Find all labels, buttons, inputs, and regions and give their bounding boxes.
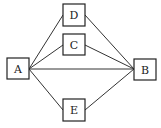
node-d: D [63, 4, 85, 26]
node-e-label: E [70, 104, 78, 117]
edge-a-c [29, 45, 63, 69]
node-b: B [134, 59, 156, 80]
edge-d-b [85, 15, 134, 69]
edge-a-e [29, 69, 63, 110]
node-a: A [7, 58, 29, 79]
node-a-label: A [13, 63, 23, 76]
node-c: C [63, 34, 85, 55]
node-b-label: B [141, 64, 149, 77]
edge-e-b [85, 69, 134, 110]
graph-diagram: A D C B E [0, 0, 161, 128]
edge-a-d [29, 15, 63, 69]
node-e: E [63, 99, 85, 121]
edge-c-b [85, 45, 134, 69]
edges [29, 15, 134, 110]
node-c-label: C [70, 39, 78, 52]
node-d-label: D [70, 9, 79, 22]
